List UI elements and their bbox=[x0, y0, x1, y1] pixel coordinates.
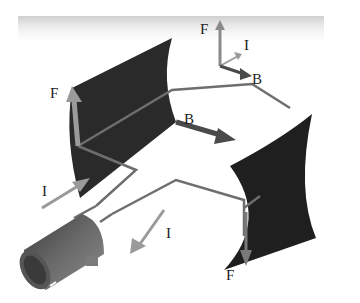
background-band bbox=[18, 16, 164, 46]
commutator bbox=[13, 214, 104, 295]
axis-current-label: I bbox=[244, 38, 249, 53]
current-out-label: I bbox=[166, 226, 171, 241]
right-force-label: F bbox=[226, 268, 234, 283]
axis-field-label: B bbox=[252, 72, 262, 87]
right-magnet-pole bbox=[224, 114, 316, 270]
left-force-label: F bbox=[50, 86, 58, 101]
motor-diagram: F I B F B I I F bbox=[0, 0, 360, 303]
axis-force-label: F bbox=[200, 22, 208, 37]
diagram-canvas bbox=[0, 0, 360, 303]
current-out-arrow bbox=[130, 210, 164, 254]
field-label: B bbox=[184, 112, 194, 127]
current-in-label: I bbox=[42, 184, 47, 199]
